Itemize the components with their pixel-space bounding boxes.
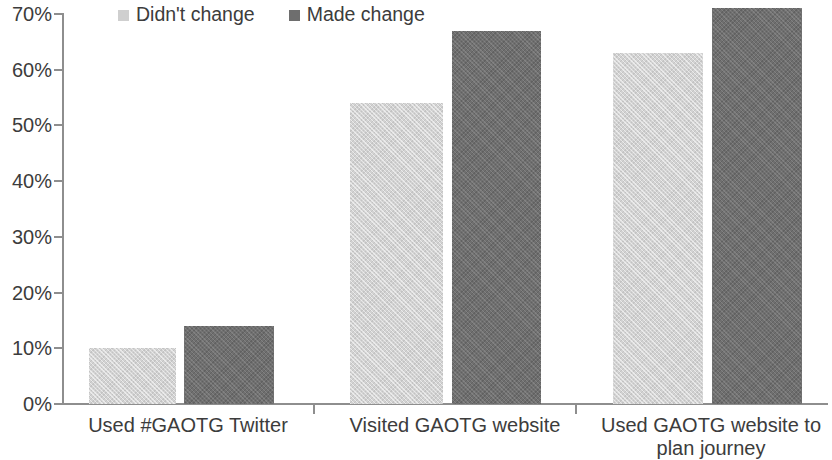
y-tick-mark xyxy=(54,124,63,126)
category-label: Used #GAOTG Twitter xyxy=(62,414,314,437)
x-tick-mark xyxy=(313,404,315,414)
y-tick-mark xyxy=(54,292,63,294)
y-tick-label: 60% xyxy=(0,60,52,80)
y-tick-label: 0% xyxy=(0,394,52,414)
bar-didnt-change xyxy=(613,53,703,404)
y-tick-mark xyxy=(54,347,63,349)
y-tick-label: 40% xyxy=(0,171,52,191)
y-tick-mark xyxy=(54,403,63,405)
y-tick-mark xyxy=(54,69,63,71)
y-tick-label: 70% xyxy=(0,4,52,24)
y-tick-label: 20% xyxy=(0,283,52,303)
y-tick-label: 30% xyxy=(0,227,52,247)
y-tick-label: 50% xyxy=(0,115,52,135)
category-label: Visited GAOTG website xyxy=(330,414,580,437)
y-axis-line xyxy=(62,13,64,405)
bar-made-change xyxy=(452,31,541,404)
bar-didnt-change xyxy=(89,348,176,404)
y-tick-label: 10% xyxy=(0,338,52,358)
y-tick-mark xyxy=(54,13,63,15)
x-tick-mark xyxy=(575,404,577,414)
bar-didnt-change xyxy=(350,103,443,404)
category-label: Used GAOTG website to plan journey xyxy=(590,414,832,460)
bar-made-change xyxy=(712,8,802,404)
y-tick-mark xyxy=(54,180,63,182)
bar-made-change xyxy=(184,326,274,404)
y-tick-mark xyxy=(54,236,63,238)
